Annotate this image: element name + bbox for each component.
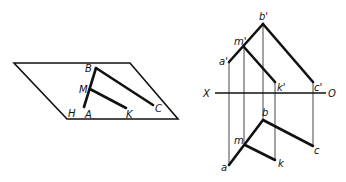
label-O: O bbox=[328, 88, 336, 99]
label-X: X bbox=[202, 88, 211, 99]
line-mk bbox=[90, 89, 126, 108]
label-m: m bbox=[234, 135, 244, 146]
projection-view: X O b' m' a' k' c' b m a k c bbox=[202, 11, 336, 173]
label-b-prime: b' bbox=[259, 11, 268, 22]
label-A: A bbox=[84, 109, 92, 120]
front-bc bbox=[263, 24, 313, 82]
label-B: B bbox=[85, 63, 92, 74]
label-a: a bbox=[221, 162, 227, 173]
label-a-prime: a' bbox=[219, 56, 228, 67]
pictorial-view: B M A K C H bbox=[14, 63, 178, 120]
top-bc bbox=[263, 120, 313, 146]
label-c-prime: c' bbox=[314, 82, 322, 93]
label-H: H bbox=[68, 108, 76, 119]
label-c: c bbox=[314, 145, 320, 156]
label-M: M bbox=[79, 84, 88, 95]
label-k: k bbox=[278, 158, 285, 169]
line-bc bbox=[96, 68, 153, 105]
diagram: B M A K C H X O b' m' a' k' c' b m a k bbox=[0, 0, 346, 182]
label-C: C bbox=[155, 103, 162, 114]
front-mk bbox=[244, 47, 275, 82]
label-b: b bbox=[262, 107, 268, 118]
label-m-prime: m' bbox=[234, 36, 247, 47]
top-mk bbox=[245, 145, 275, 160]
label-k-prime: k' bbox=[277, 82, 286, 93]
